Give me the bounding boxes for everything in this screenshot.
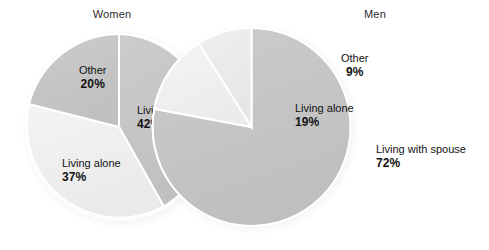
chart-panel-men: Men bbox=[245, 0, 489, 250]
pie-label-men-living-with-spouse: Living with spouse 72% bbox=[376, 143, 466, 170]
pie-label-value: 72% bbox=[376, 156, 466, 170]
pie-label-name: Living alone bbox=[295, 102, 354, 115]
pie-svg-men bbox=[0, 0, 489, 250]
pie-label-name: Living with spouse bbox=[376, 143, 466, 156]
pie-chart-figure: Women bbox=[0, 0, 489, 250]
pie-label-men-living-alone: Living alone 19% bbox=[295, 102, 354, 129]
pie-label-name: Other bbox=[341, 52, 369, 65]
pie-label-value: 19% bbox=[295, 115, 354, 129]
pie-label-men-other: Other 9% bbox=[341, 52, 369, 79]
pie-label-value: 9% bbox=[341, 65, 369, 79]
